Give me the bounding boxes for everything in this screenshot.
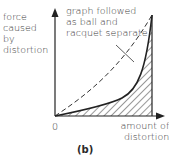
figure-caption: (b) <box>77 144 93 155</box>
y-axis-label-line: by <box>3 33 48 44</box>
x-axis-label-line: amount of <box>118 120 169 131</box>
x-axis-arrow-icon <box>156 113 165 120</box>
curve-label-line: graph followed <box>66 5 148 16</box>
x-axis-label: amount of distortion <box>118 120 169 142</box>
curve-label-line: racquet separate <box>66 27 148 38</box>
y-axis-arrow-icon <box>52 8 59 17</box>
y-axis-label-line: caused <box>3 22 48 33</box>
y-axis-label-line: distortion <box>3 44 48 55</box>
y-axis-label-line: force <box>3 11 48 22</box>
x-axis-label-line: distortion <box>118 131 169 142</box>
y-axis-label: force caused by distortion <box>3 11 48 55</box>
curve-label-line: as ball and <box>66 16 148 27</box>
origin-label: 0 <box>52 121 58 132</box>
dashed-curve-label: graph followed as ball and racquet separ… <box>66 5 148 38</box>
label-leader-line <box>116 45 134 62</box>
